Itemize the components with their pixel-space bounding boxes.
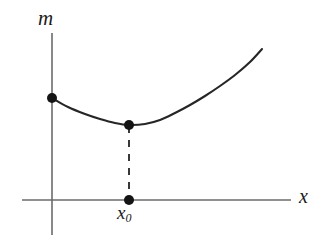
minimum-x-label: x0 [117, 203, 131, 222]
function-curve [52, 49, 262, 125]
figure-canvas: m x x0 [0, 0, 331, 245]
x-axis-label: x [299, 186, 308, 206]
y-axis-label: m [38, 8, 53, 29]
plot-svg [0, 0, 331, 245]
curve-minimum-dot [124, 120, 134, 130]
minimum-x-subscript: 0 [125, 211, 131, 225]
curve-y-intercept-dot [47, 93, 57, 103]
